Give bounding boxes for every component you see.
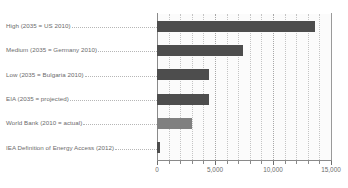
x-axis-tick-labels: 05,00010,00015,000 (157, 166, 332, 178)
tick-mark (157, 161, 158, 165)
tick-mark (308, 161, 309, 164)
category-label-row: EIA (2035 = projected) (0, 87, 157, 111)
leader-line (70, 96, 157, 102)
category-label-row: High (2035 = US 2010) (0, 14, 157, 38)
plot-area (157, 14, 331, 160)
category-label-column: High (2035 = US 2010) Medium (2035 = Ger… (0, 14, 157, 160)
bar-row (157, 87, 331, 111)
category-label-row: Low (2035 = Bulgaria 2010) (0, 63, 157, 87)
bar-world-bank (157, 118, 192, 129)
bar-row (157, 38, 331, 62)
leader-line (72, 23, 157, 29)
bar-row (157, 136, 331, 160)
category-label-world-bank: World Bank (2010 = actual) (6, 119, 83, 127)
tick-mark (238, 161, 239, 164)
tick-mark (261, 161, 262, 164)
bar-row (157, 111, 331, 135)
x-axis-tick-label: 15,000 (321, 166, 341, 174)
leader-line (85, 72, 158, 78)
bar-row (157, 14, 331, 38)
bar-iea-definition (157, 142, 160, 153)
category-label-row: World Bank (2010 = actual) (0, 111, 157, 135)
category-label-row: IEA Definition of Energy Access (2012) (0, 136, 157, 160)
bar-series (157, 14, 331, 160)
tick-mark (250, 161, 251, 164)
bar-row (157, 63, 331, 87)
leader-line (98, 47, 157, 53)
tick-mark (227, 161, 228, 164)
tick-mark (215, 161, 216, 165)
plot-right-border (331, 13, 332, 161)
category-label-eia: EIA (2035 = projected) (6, 95, 70, 103)
bar-medium (157, 45, 243, 56)
tick-mark (180, 161, 181, 164)
y-axis-line (157, 13, 158, 161)
bar-high (157, 21, 315, 32)
x-axis-tick-label: 5,000 (207, 166, 223, 174)
bar-chart: High (2035 = US 2010) Medium (2035 = Ger… (0, 0, 348, 188)
tick-mark (273, 161, 274, 165)
tick-mark (169, 161, 170, 164)
bar-low (157, 69, 209, 80)
leader-line (83, 120, 157, 126)
category-label-iea-definition: IEA Definition of Energy Access (2012) (6, 144, 115, 152)
category-label-high: High (2035 = US 2010) (6, 22, 72, 30)
bar-eia (157, 94, 209, 105)
tick-mark (296, 161, 297, 164)
leader-line (115, 145, 157, 151)
x-axis-tick-label: 0 (155, 166, 159, 174)
category-label-medium: Medium (2035 = Germany 2010) (6, 46, 98, 54)
x-axis-ticks (157, 161, 332, 165)
tick-mark (319, 161, 320, 164)
tick-mark (192, 161, 193, 164)
tick-mark (331, 161, 332, 165)
x-axis-tick-label: 10,000 (263, 166, 283, 174)
tick-mark (203, 161, 204, 164)
category-label-low: Low (2035 = Bulgaria 2010) (6, 71, 85, 79)
category-label-row: Medium (2035 = Germany 2010) (0, 38, 157, 62)
tick-mark (285, 161, 286, 164)
